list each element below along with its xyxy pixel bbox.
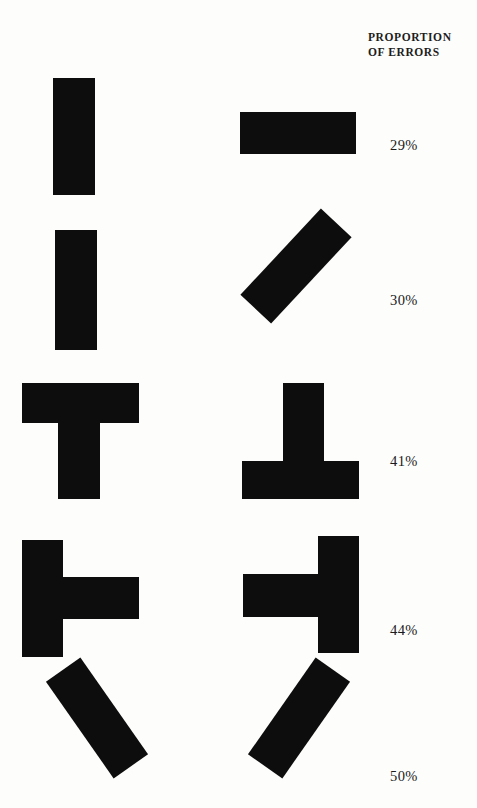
error-proportion-row-5: 50% [390,768,460,785]
stimulus-row-1-right-horizontal-bar [240,112,356,154]
bar-segment [240,209,351,324]
bar-segment [55,230,97,350]
tee-crossbar [318,536,359,653]
stimulus-row-4-right-tee-rotated-left [243,536,359,653]
tee-stem [243,574,318,617]
stimulus-row-1-left-vertical-bar [53,78,95,195]
stimulus-row-5-right-oblique-bar [240,697,358,739]
error-proportion-row-3: 41% [390,453,460,470]
stimulus-row-3-right-tee-inverted [242,383,359,499]
error-proportion-row-2: 30% [390,292,460,309]
tee-crossbar [22,540,63,657]
column-heading-line-1: PROPORTION [368,30,473,45]
stimulus-row-3-left-tee-upright [22,383,139,499]
tee-crossbar [242,461,359,499]
error-proportion-row-1: 29% [390,137,460,154]
tee-stem [283,383,324,461]
stimulus-row-4-left-tee-rotated-right [22,540,139,657]
error-proportion-row-4: 44% [390,622,460,639]
tee-stem [58,423,100,499]
stimulus-row-5-left-oblique-bar [38,697,156,739]
tee-stem [63,577,139,619]
column-heading: PROPORTION OF ERRORS [368,30,473,60]
stimulus-row-2-left-vertical-bar [55,230,97,350]
tee-crossbar [22,383,139,423]
figure-canvas: PROPORTION OF ERRORS 29% 30% 41% 44% [0,0,477,808]
stimulus-row-2-right-oblique-bar [237,245,355,287]
bar-segment [248,658,350,779]
column-heading-line-2: OF ERRORS [368,45,473,60]
bar-segment [240,112,356,154]
bar-segment [53,78,95,195]
bar-segment [46,658,148,779]
